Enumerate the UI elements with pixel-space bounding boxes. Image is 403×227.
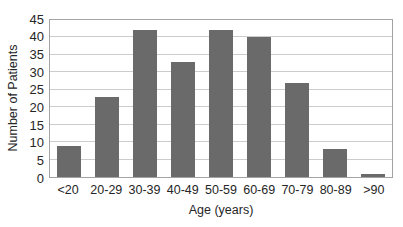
x-tick-label: 30-39: [125, 183, 163, 197]
x-tick-label: 20-29: [87, 183, 125, 197]
bar-20-29: [95, 97, 120, 177]
y-tick-label: 35: [0, 47, 44, 62]
bar-30-39: [133, 30, 158, 177]
x-tick-label: 80-89: [317, 183, 355, 197]
x-tick-label: 50-59: [202, 183, 240, 197]
y-tick-label: 0: [0, 171, 44, 186]
y-tick-label: 25: [0, 82, 44, 97]
bar-slot: [202, 20, 240, 177]
bar-slot: [126, 20, 164, 177]
bar-<20: [57, 146, 82, 177]
plot-area: [49, 19, 393, 178]
y-tick-label: 45: [0, 12, 44, 27]
x-tick-label: <20: [49, 183, 87, 197]
y-tick-label: 15: [0, 118, 44, 133]
x-axis-labels: <2020-2930-3940-4950-5960-6970-7980-89>9…: [49, 183, 393, 197]
bar-slot: [316, 20, 354, 177]
y-tick-label: 10: [0, 135, 44, 150]
y-tick-label: 20: [0, 100, 44, 115]
bar-70-79: [285, 83, 310, 177]
x-tick-label: >90: [355, 183, 393, 197]
y-tick-label: 5: [0, 153, 44, 168]
bar-slot: [88, 20, 126, 177]
bar-slot: [278, 20, 316, 177]
bar-60-69: [247, 37, 272, 177]
bar-slot: [50, 20, 88, 177]
bars-layer: [50, 20, 392, 177]
x-tick-label: 40-49: [164, 183, 202, 197]
x-tick-label: 70-79: [278, 183, 316, 197]
bar->90: [361, 174, 386, 177]
x-tick-label: 60-69: [240, 183, 278, 197]
bar-slot: [354, 20, 392, 177]
y-tick-label: 30: [0, 65, 44, 80]
age-distribution-bar-chart: Number of Patients 051015202530354045 <2…: [0, 0, 403, 227]
bar-50-59: [209, 30, 234, 177]
y-tick-label: 40: [0, 29, 44, 44]
bar-slot: [164, 20, 202, 177]
bar-80-89: [323, 149, 348, 177]
bar-slot: [240, 20, 278, 177]
bar-40-49: [171, 62, 196, 177]
x-axis-title: Age (years): [49, 203, 393, 217]
